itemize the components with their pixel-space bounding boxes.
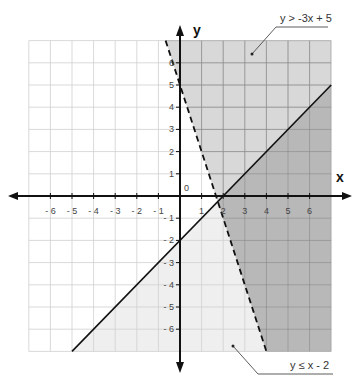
y-axis-down-arrow-icon: [176, 362, 184, 373]
y-tick-label: - 2: [163, 235, 174, 245]
inequality-label-lower: y ≤ x - 2: [290, 359, 329, 371]
x-axis-label: x: [336, 169, 344, 185]
y-tick-label: 1: [169, 169, 174, 179]
y-axis-label: y: [193, 22, 201, 38]
leader-dot-lower: [232, 345, 235, 348]
y-tick-label: 2: [169, 147, 174, 157]
x-tick-label: - 4: [88, 206, 99, 216]
y-tick-label: 5: [169, 80, 174, 90]
y-tick-label: - 4: [163, 280, 174, 290]
x-tick-label: 6: [307, 206, 312, 216]
y-tick-label: - 6: [163, 324, 174, 334]
inequality-label-upper: y > -3x + 5: [280, 12, 332, 24]
y-tick-label: - 5: [163, 302, 174, 312]
x-axis-right-arrow-icon: [342, 192, 352, 200]
x-tick-label: 3: [242, 206, 247, 216]
x-tick-label: - 3: [110, 206, 121, 216]
x-tick-label: - 2: [132, 206, 143, 216]
x-tick-label: - 5: [67, 206, 78, 216]
leader-dot-upper: [251, 53, 254, 56]
x-tick-label: 2: [221, 206, 226, 216]
x-axis-left-arrow-icon: [8, 192, 18, 200]
y-axis-up-arrow-icon: [176, 25, 184, 36]
x-tick-label: 1: [199, 206, 204, 216]
x-tick-label: 4: [264, 206, 269, 216]
y-tick-label: - 3: [163, 258, 174, 268]
y-tick-label: - 1: [163, 213, 174, 223]
x-tick-label: 5: [285, 206, 290, 216]
y-tick-label: 4: [169, 102, 174, 112]
x-tick-label: - 1: [153, 206, 164, 216]
origin-label: 0: [184, 183, 189, 193]
inequality-chart: - 6- 5- 4- 3- 2- 1123456- 6- 5- 4- 3- 2-…: [0, 0, 358, 390]
y-tick-label: 3: [169, 124, 174, 134]
x-tick-label: - 6: [45, 206, 56, 216]
y-tick-label: 6: [169, 58, 174, 68]
